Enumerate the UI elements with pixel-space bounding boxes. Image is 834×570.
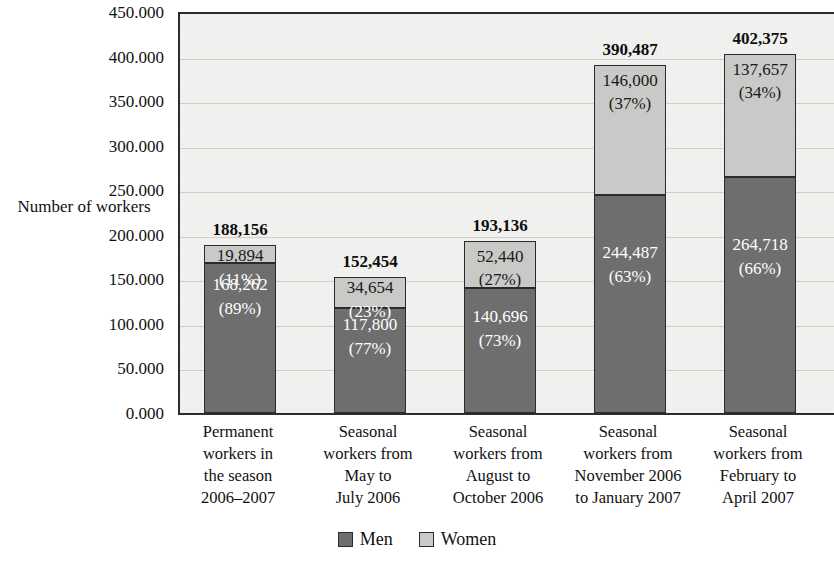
y-axis-tick-label: 250.000 — [0, 182, 164, 199]
bar-label-women-value: 52,440 — [464, 247, 536, 267]
category-label-line: workers in — [173, 443, 303, 465]
bar-group[interactable]: 19,894(11%)168,262(89%)188,156 — [204, 245, 276, 413]
category-label-line: workers from — [433, 443, 563, 465]
category-label-line: to January 2007 — [563, 487, 693, 509]
bar-segment-men[interactable] — [724, 177, 796, 413]
category-label-line: Seasonal — [433, 421, 563, 443]
bar-label-women-percent: (27%) — [464, 270, 536, 290]
legend: MenWomen — [0, 530, 834, 548]
category-label-line: February to — [693, 465, 823, 487]
category-label-line: the season — [173, 465, 303, 487]
bar-label-men-value: 244,487 — [594, 243, 666, 263]
bar-label-men-percent: (77%) — [334, 339, 406, 359]
x-axis-category-label: Seasonalworkers fromFebruary toApril 200… — [693, 421, 823, 509]
bar-label-men-percent: (66%) — [724, 259, 796, 279]
x-axis-category-label: Seasonalworkers fromMay toJuly 2006 — [303, 421, 433, 509]
legend-item-women[interactable]: Women — [419, 530, 497, 548]
bar-label-women-value: 146,000 — [594, 71, 666, 91]
y-axis-tick-label: 300.000 — [0, 137, 164, 154]
bar-series-layer: 19,894(11%)168,262(89%)188,15634,654(23%… — [180, 14, 834, 413]
bar-label-men-value: 168,262 — [204, 275, 276, 295]
legend-label-women: Women — [441, 530, 497, 548]
category-label-line: April 2007 — [693, 487, 823, 509]
bar-label-women-value: 137,657 — [724, 60, 796, 80]
bar-label-men-percent: (73%) — [464, 331, 536, 351]
bar-segment-men[interactable] — [594, 195, 666, 413]
y-axis-tick-label: 200.000 — [0, 226, 164, 243]
category-label-line: workers from — [693, 443, 823, 465]
category-label-line: workers from — [303, 443, 433, 465]
category-label-line: workers from — [563, 443, 693, 465]
legend-label-men: Men — [360, 530, 393, 548]
bar-total-label: 390,487 — [580, 40, 680, 59]
legend-item-men[interactable]: Men — [338, 530, 393, 548]
bar-label-men-value: 264,718 — [724, 235, 796, 255]
stacked-bar-chart-figure: Number of workers 450.000400.000350.0003… — [0, 0, 834, 570]
y-axis-tick-labels: 450.000400.000350.000300.000250.000200.0… — [0, 0, 172, 430]
bar-group[interactable]: 34,654(23%)117,800(77%)152,454 — [334, 277, 406, 413]
x-axis-category-label: Seasonalworkers fromNovember 2006to Janu… — [563, 421, 693, 509]
y-axis-tick-label: 450.000 — [0, 4, 164, 21]
category-label-line: 2006–2007 — [173, 487, 303, 509]
y-axis-tick-label: 350.000 — [0, 93, 164, 110]
bar-label-women-percent: (37%) — [594, 94, 666, 114]
y-axis-tick-label: 400.000 — [0, 48, 164, 65]
bar-group[interactable]: 146,000(37%)244,487(63%)390,487 — [594, 65, 666, 413]
x-axis-category-label: Seasonalworkers fromAugust toOctober 200… — [433, 421, 563, 509]
bar-label-women-value: 19,894 — [204, 246, 276, 266]
bar-label-women-value: 34,654 — [334, 278, 406, 298]
bar-group[interactable]: 137,657(34%)264,718(66%)402,375 — [724, 54, 796, 413]
legend-swatch-women — [419, 532, 434, 547]
bar-label-women-percent: (34%) — [724, 83, 796, 103]
y-axis-tick-label: 0.000 — [0, 405, 164, 422]
category-label-line: Seasonal — [563, 421, 693, 443]
y-axis-tick-label: 150.000 — [0, 271, 164, 288]
bar-total-label: 402,375 — [710, 29, 810, 48]
bar-total-label: 152,454 — [320, 252, 420, 271]
category-label-line: May to — [303, 465, 433, 487]
y-axis-tick-label: 100.000 — [0, 315, 164, 332]
category-label-line: August to — [433, 465, 563, 487]
category-label-line: Permanent — [173, 421, 303, 443]
plot-area: 19,894(11%)168,262(89%)188,15634,654(23%… — [178, 12, 834, 415]
category-label-line: Seasonal — [303, 421, 433, 443]
bar-label-men-percent: (89%) — [204, 299, 276, 319]
category-label-line: Seasonal — [693, 421, 823, 443]
bar-label-men-value: 117,800 — [334, 315, 406, 335]
bar-group[interactable]: 52,440(27%)140,696(73%)193,136 — [464, 241, 536, 413]
legend-swatch-men — [338, 532, 353, 547]
y-axis-tick-label: 50.000 — [0, 360, 164, 377]
category-label-line: July 2006 — [303, 487, 433, 509]
x-axis-category-label: Permanentworkers inthe season2006–2007 — [173, 421, 303, 509]
bar-label-men-percent: (63%) — [594, 267, 666, 287]
bar-total-label: 193,136 — [450, 216, 550, 235]
category-label-line: November 2006 — [563, 465, 693, 487]
category-label-line: October 2006 — [433, 487, 563, 509]
x-axis-category-labels: Permanentworkers inthe season2006–2007Se… — [178, 421, 834, 526]
bar-label-men-value: 140,696 — [464, 307, 536, 327]
bar-total-label: 188,156 — [190, 220, 290, 239]
